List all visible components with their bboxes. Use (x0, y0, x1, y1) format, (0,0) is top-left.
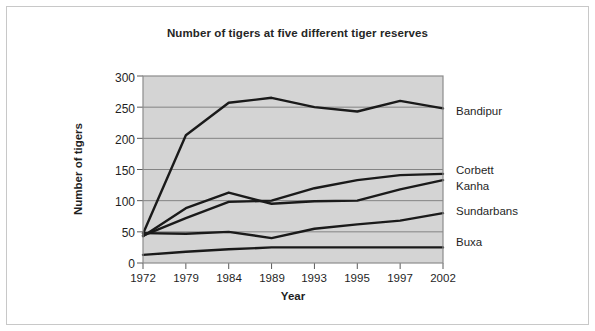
chart-figure: Number of tigers at five different tiger… (0, 0, 595, 331)
plot-area (0, 0, 595, 331)
